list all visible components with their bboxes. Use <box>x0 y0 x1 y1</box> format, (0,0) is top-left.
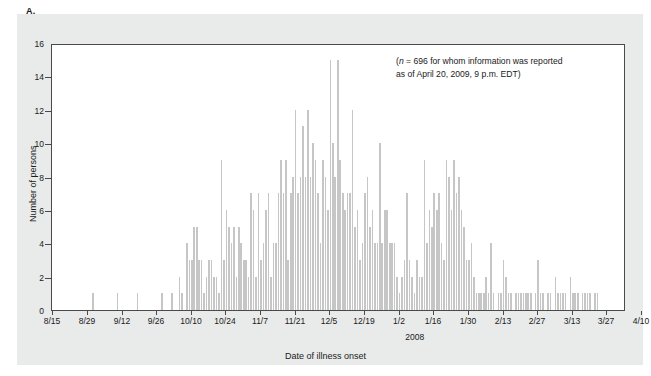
x-tick-mark-1-30 <box>468 311 469 315</box>
bar-11-29 <box>315 160 317 310</box>
bar-11-13 <box>275 243 277 310</box>
bar-11-26 <box>307 110 309 310</box>
bar-10-29 <box>238 227 240 310</box>
bar-1-9 <box>416 260 418 310</box>
bar-1-6 <box>409 260 411 310</box>
bar-12-5 <box>330 60 332 310</box>
bar-12-24 <box>377 243 379 310</box>
bar-1-3 <box>401 277 403 310</box>
bar-12-12 <box>347 193 349 310</box>
x-tick-label-12-5: 12/5 <box>309 316 349 326</box>
bar-10-19 <box>213 277 215 310</box>
bar-12-11 <box>344 210 346 310</box>
bar-1-28 <box>463 227 465 310</box>
bar-1-16 <box>433 193 435 310</box>
x-tick-label-1-30: 1/30 <box>448 316 488 326</box>
x-tick-mark-9-26 <box>156 311 157 315</box>
panel-label: A. <box>26 6 35 16</box>
y-tick-label-6: 6 <box>20 206 44 216</box>
bar-10-30 <box>240 243 242 310</box>
y-tick-label-10: 10 <box>20 139 44 149</box>
bar-series-daily-cases <box>52 45 624 310</box>
bar-3-22 <box>594 293 596 310</box>
bar-1-25 <box>456 193 458 310</box>
x-tick-mark-4-10 <box>641 311 642 315</box>
bar-9-10 <box>117 293 119 310</box>
y-tick-label-8: 8 <box>20 173 44 183</box>
y-tick-label-14: 14 <box>20 72 44 82</box>
bar-10-21 <box>218 293 220 310</box>
bar-2-22 <box>525 293 527 310</box>
bar-12-10 <box>342 193 344 310</box>
x-tick-label-11-7: 11/7 <box>240 316 280 326</box>
bar-3-20 <box>589 293 591 310</box>
bar-8-31 <box>92 293 94 310</box>
bar-3-6 <box>555 277 557 310</box>
x-tick-label-9-26: 9/26 <box>136 316 176 326</box>
bar-12-16 <box>357 210 359 310</box>
bar-12-18 <box>362 243 364 310</box>
bar-12-14 <box>352 110 354 310</box>
x-tick-mark-2-27 <box>537 311 538 315</box>
bar-1-14 <box>429 210 431 310</box>
bar-1-21 <box>446 160 448 310</box>
bar-2-2 <box>476 293 478 310</box>
x-tick-mark-3-13 <box>572 311 573 315</box>
bar-2-1 <box>473 277 475 310</box>
bar-2-13 <box>503 260 505 310</box>
bar-10-18 <box>211 260 213 310</box>
x-tick-label-4-10: 4/10 <box>621 316 651 326</box>
x-tick-label-12-19: 12/19 <box>344 316 384 326</box>
annotation-line-1: (n = 696 for whom information was report… <box>396 55 562 68</box>
bar-12-23 <box>374 243 376 310</box>
bar-10-12 <box>196 227 198 310</box>
bar-10-17 <box>208 260 210 310</box>
bar-2-7 <box>488 293 490 310</box>
plot-area <box>51 44 625 311</box>
bar-1-4 <box>404 260 406 310</box>
bar-11-17 <box>285 160 287 310</box>
bar-3-23 <box>597 293 599 310</box>
bar-3-15 <box>577 293 579 310</box>
bar-1-10 <box>419 277 421 310</box>
bar-3-17 <box>582 293 584 310</box>
bar-2-21 <box>523 293 525 310</box>
bar-12-22 <box>372 210 374 310</box>
bar-12-8 <box>337 60 339 310</box>
bar-10-27 <box>233 227 235 310</box>
annotation-line-1-rest: = 696 for whom information was reported <box>404 56 563 66</box>
bar-11-20 <box>292 177 294 311</box>
bar-12-31 <box>394 243 396 310</box>
bar-1-30 <box>468 260 470 310</box>
bar-12-29 <box>389 243 391 310</box>
bar-3-7 <box>557 293 559 310</box>
bar-1-5 <box>406 193 408 310</box>
bar-3-8 <box>560 293 562 310</box>
bar-1-17 <box>436 210 438 310</box>
x-tick-label-8-15: 8/15 <box>32 316 72 326</box>
bar-12-3 <box>325 177 327 311</box>
x-tick-label-1-16: 1/16 <box>413 316 453 326</box>
y-tick-label-2: 2 <box>20 273 44 283</box>
bar-12-2 <box>322 160 324 310</box>
x-tick-mark-11-7 <box>260 311 261 315</box>
bar-1-27 <box>461 210 463 310</box>
bar-11-14 <box>278 193 280 310</box>
bar-3-18 <box>584 293 586 310</box>
x-tick-mark-1-16 <box>433 311 434 315</box>
bar-1-13 <box>426 243 428 310</box>
bar-2-28 <box>540 293 542 310</box>
y-tick-label-16: 16 <box>20 39 44 49</box>
bar-2-20 <box>520 293 522 310</box>
bar-3-13 <box>572 293 574 310</box>
y-tick-label-4: 4 <box>20 239 44 249</box>
y-tick-label-0: 0 <box>20 306 44 316</box>
bar-11-23 <box>300 177 302 311</box>
bar-1-19 <box>441 243 443 310</box>
bar-1-31 <box>471 243 473 310</box>
bar-2-6 <box>485 277 487 310</box>
bar-11-10 <box>268 193 270 310</box>
bar-10-11 <box>193 227 195 310</box>
bar-10-8 <box>186 243 188 310</box>
bar-3-1 <box>542 293 544 310</box>
